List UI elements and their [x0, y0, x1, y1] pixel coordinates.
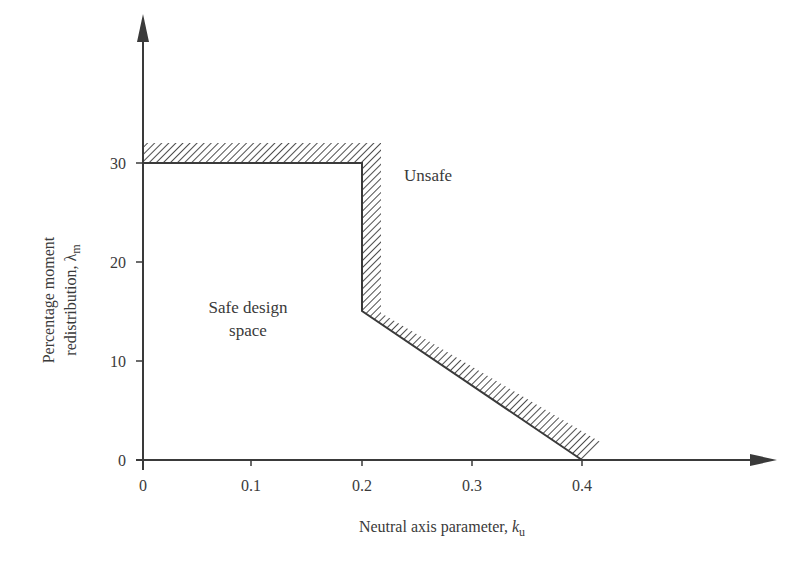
y-tick-label: 10 [110, 353, 126, 370]
x-axis-arrow-icon [750, 454, 777, 466]
safe-region-label-line2: space [229, 321, 267, 340]
x-tick-label: 0.2 [352, 477, 372, 494]
y-axis-title-line1: Percentage moment [40, 236, 58, 363]
y-axis-title: Percentage moment redistribution, λm [40, 236, 83, 363]
y-tick-label: 20 [110, 254, 126, 271]
y-axis-title-line2-sub: m [69, 244, 83, 254]
y-axis-title-line2: redistribution, λm [62, 244, 83, 356]
safe-region-label-line1: Safe design [209, 298, 288, 317]
x-tick-label: 0.4 [572, 477, 592, 494]
x-tick-label: 0.3 [462, 477, 482, 494]
y-axis-arrow-icon [137, 14, 149, 42]
x-axis [136, 454, 777, 466]
chart-canvas: 30 20 10 0 0 0.1 0.2 0.3 0.4 Neutral axi… [0, 0, 807, 565]
y-axis-title-line2-main: redistribution, [62, 261, 79, 355]
y-tick-label: 0 [118, 452, 126, 469]
x-axis-title-sub: u [519, 525, 525, 539]
y-axis [136, 14, 149, 470]
x-axis-title-main: Neutral axis parameter, [359, 518, 512, 536]
y-tick-label: 30 [110, 155, 126, 172]
x-tick-label: 0 [139, 477, 147, 494]
unsafe-region-label: Unsafe [404, 166, 452, 185]
x-axis-title: Neutral axis parameter, ku [359, 518, 525, 539]
x-tick-label: 0.1 [241, 477, 261, 494]
